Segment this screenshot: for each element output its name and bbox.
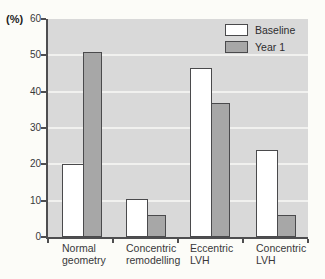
y-tick-label: 50: [0, 49, 41, 61]
x-tick: [47, 239, 49, 243]
x-category-label-normal-geometry: Normalgeometry: [62, 243, 106, 266]
bar-year-1-normal-geometry: [83, 52, 102, 237]
x-tick: [242, 239, 244, 243]
x-tick: [112, 239, 114, 243]
legend-swatch-baseline: [225, 24, 248, 36]
y-tick-label: 60: [0, 13, 41, 25]
y-tick: [41, 163, 46, 165]
y-tick: [41, 127, 46, 129]
y-tick: [41, 200, 46, 202]
bar-year-1-eccentric-lvh: [211, 103, 230, 237]
y-tick-label: 10: [0, 195, 41, 207]
y-tick-label: 30: [0, 122, 41, 134]
legend-row-baseline: Baseline: [225, 24, 295, 36]
y-tick-label: 40: [0, 86, 41, 98]
bar-baseline-normal-geometry: [62, 164, 84, 237]
y-tick: [41, 91, 46, 93]
legend-label-baseline: Baseline: [255, 24, 295, 36]
bar-chart-figure: (%) BaselineYear 1 0102030405060Normalge…: [0, 0, 325, 279]
bar-baseline-concentric-lvh: [256, 150, 278, 237]
bar-year-1-concentric-lvh: [277, 215, 296, 237]
plot-area: BaselineYear 1: [46, 19, 308, 239]
x-category-label-eccentric-lvh: EccentricLVH: [190, 243, 233, 266]
x-category-label-concentric-lvh: ConcentricLVH: [256, 243, 306, 266]
y-tick-label: 20: [0, 158, 41, 170]
y-tick-label: 0: [0, 231, 41, 243]
bar-baseline-concentric-remodelling: [126, 199, 148, 237]
legend-label-year-1: Year 1: [255, 41, 285, 53]
y-tick: [41, 54, 46, 56]
x-category-label-concentric-remodelling: Concentricremodelling: [126, 243, 180, 266]
legend: BaselineYear 1: [225, 24, 295, 58]
y-tick: [41, 236, 46, 238]
y-tick: [41, 18, 46, 20]
bar-baseline-eccentric-lvh: [190, 68, 212, 237]
legend-row-year-1: Year 1: [225, 41, 295, 53]
x-tick: [307, 239, 309, 243]
legend-swatch-year-1: [225, 41, 248, 53]
bar-year-1-concentric-remodelling: [147, 215, 166, 237]
